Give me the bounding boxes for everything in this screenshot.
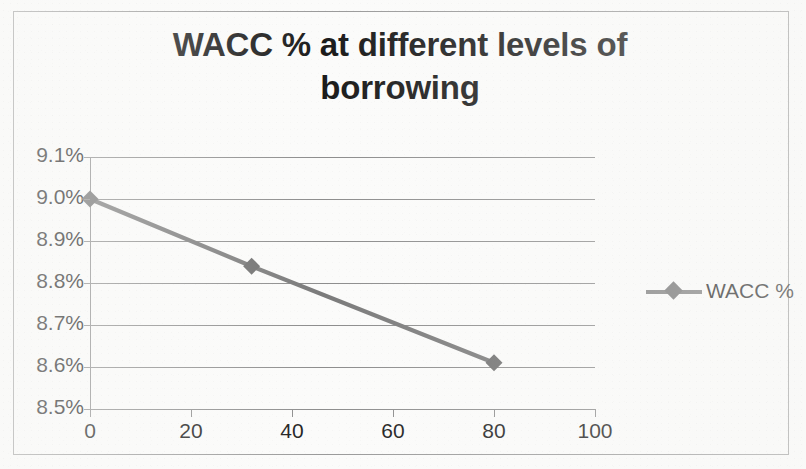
data-point-marker (243, 258, 260, 275)
y-axis-tick-mark (84, 367, 90, 368)
series-wacc-percent (0, 0, 806, 469)
data-point-marker (486, 354, 503, 371)
y-axis-tick-mark (84, 325, 90, 326)
legend-marker-wacc-percent (646, 281, 702, 301)
legend-label-wacc-percent: WACC % (706, 279, 794, 303)
legend: WACC % (646, 279, 794, 303)
y-axis-tick-mark (84, 199, 90, 200)
y-axis-tick-mark (84, 283, 90, 284)
y-axis-tick-mark (84, 241, 90, 242)
chart-screenshot: WACC % at different levels of borrowing … (0, 0, 806, 469)
series-line (90, 199, 494, 363)
y-axis-tick-mark (84, 409, 90, 410)
diamond-marker-icon (664, 281, 682, 299)
y-axis-tick-mark (84, 157, 90, 158)
